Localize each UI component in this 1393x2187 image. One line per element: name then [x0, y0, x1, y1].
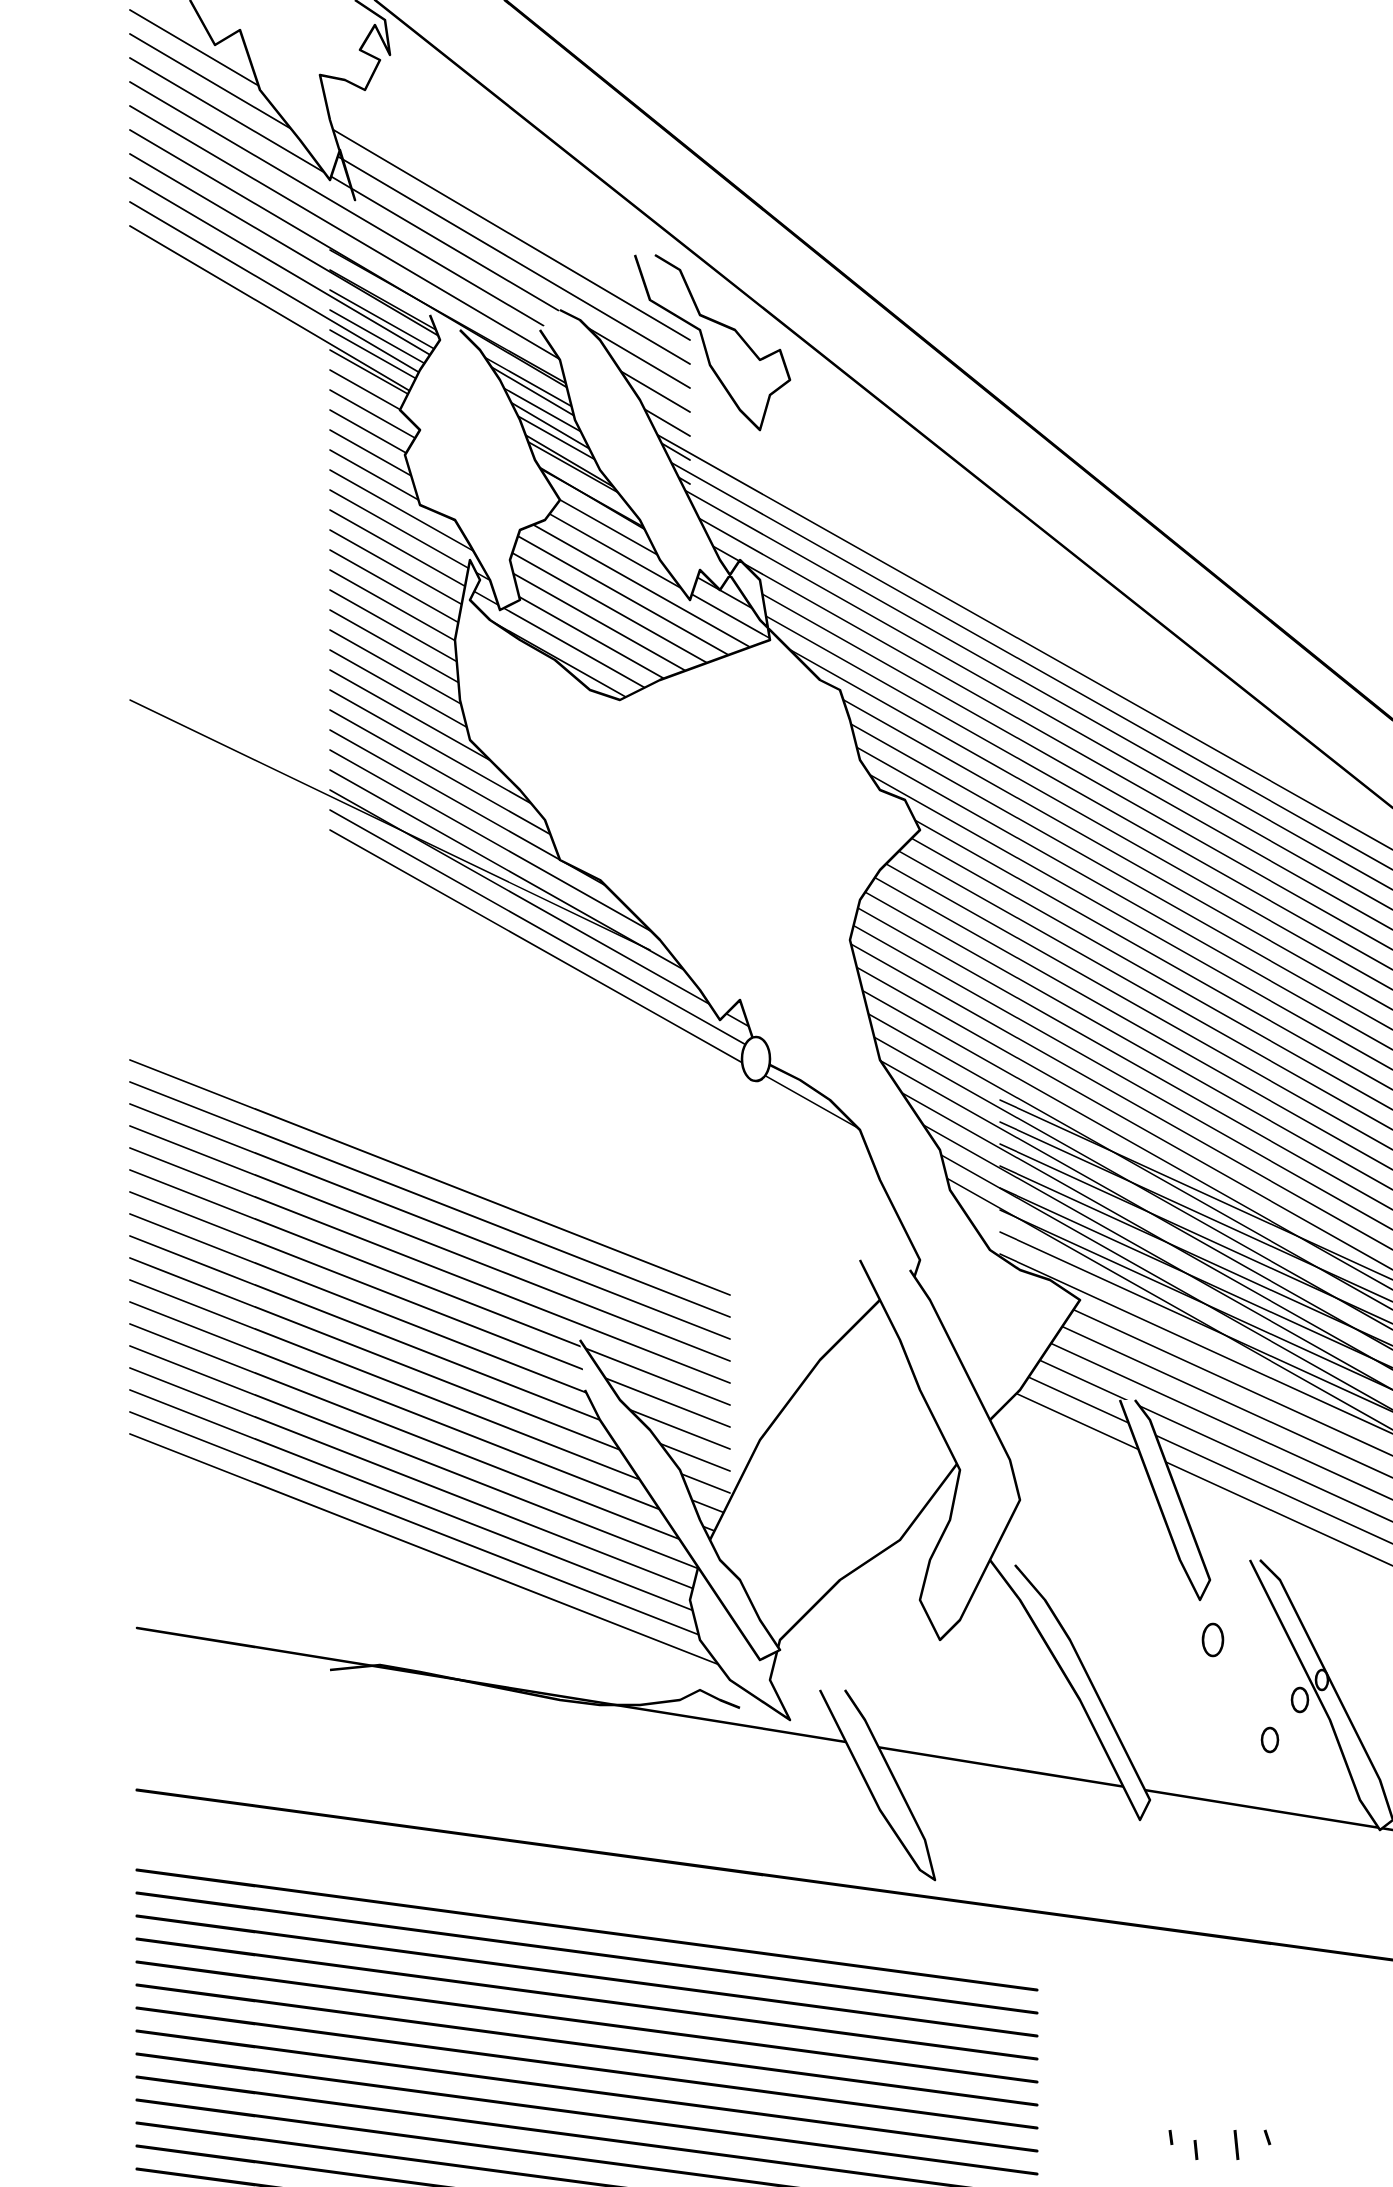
blob-4	[1316, 1670, 1328, 1690]
blob-1	[742, 1037, 770, 1081]
debris-mark	[1195, 2140, 1197, 2160]
blob-5	[1262, 1728, 1278, 1752]
blob-3	[1292, 1688, 1308, 1712]
blob-2	[1203, 1624, 1223, 1656]
ink-drawing	[0, 0, 1393, 2187]
debris-mark	[1170, 2130, 1172, 2145]
